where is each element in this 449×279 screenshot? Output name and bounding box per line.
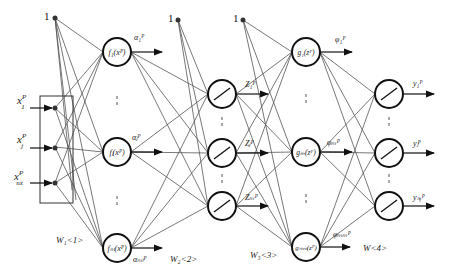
layer4-output-label-j: yⱼᴾ	[412, 139, 422, 148]
layer1-output-label-m: αₘₗᴾ	[133, 255, 147, 264]
layer1-node-label-1: f₁(xᴾ)	[108, 48, 125, 57]
layer1-output-label-j: αⱼᴾ	[132, 133, 141, 142]
bias-label-3: 1	[233, 12, 239, 24]
bias-label-2: 1	[168, 12, 174, 24]
layer4-nodes	[375, 80, 403, 220]
input-label-j: xPj	[16, 132, 27, 150]
edges-input-to-layer1	[55, 18, 103, 248]
layer2-nodes	[208, 80, 236, 220]
layer2-output-label-1: Z₁ᴾ	[245, 80, 256, 89]
layer4-out-arrows	[403, 94, 434, 206]
layer3-output-label-1: φ₁ᴾ	[335, 35, 346, 44]
input-dots	[53, 106, 58, 186]
layer2-output-label-j: Zⱼᴾ	[245, 139, 254, 148]
weight-label-3: W₃<3>	[250, 250, 277, 260]
layer1-out-arrows	[131, 52, 162, 248]
layer2-output-label-m: Zₘᴾ	[245, 193, 258, 202]
layer4-output-label-ny: yₙᵧᴾ	[412, 193, 425, 202]
layer1-node-label-j: fⱼ(xᴾ)	[109, 148, 125, 157]
layer1-output-label-1: α₁ᴾ	[134, 33, 145, 42]
edges-layer2-to-layer3	[236, 20, 292, 247]
layer3-output-label-mm: φₘₘᴾ	[333, 230, 351, 239]
bias-label-1: 1	[44, 10, 50, 22]
weight-label-1: W₁<1>	[56, 235, 83, 245]
input-label-nx: xPnx	[13, 169, 24, 187]
layer3-node-label-mm: gₘₘ(zᴾ)	[295, 244, 317, 252]
layer3-output-label-m: φₘᴾ	[327, 138, 340, 147]
weight-label-4: W<4>	[363, 243, 387, 253]
layer4-output-label-1: y₁ᴾ	[412, 79, 423, 88]
edges-layer3-to-layer4	[320, 52, 375, 247]
network-svg: 1 1 1 xP1 xPj xPnx f₁(xᴾ) fⱼ(xᴾ) fₘ(xᴾ) …	[0, 0, 449, 279]
neural-network-diagram: 1 1 1 xP1 xPj xPnx f₁(xᴾ) fⱼ(xᴾ) fₘ(xᴾ) …	[0, 0, 449, 279]
weight-label-2: W₂<2>	[170, 254, 197, 264]
edges-layer1-to-layer2	[131, 20, 208, 248]
input-arrows	[30, 108, 52, 183]
input-label-1: xP1	[16, 93, 27, 111]
layer3-node-label-m: gₘ(zᴾ)	[296, 148, 316, 157]
layer3-node-label-1: g₁(zᴾ)	[297, 48, 315, 57]
layer1-node-label-m: fₘ(xᴾ)	[107, 244, 127, 253]
bias-dots	[53, 16, 246, 23]
